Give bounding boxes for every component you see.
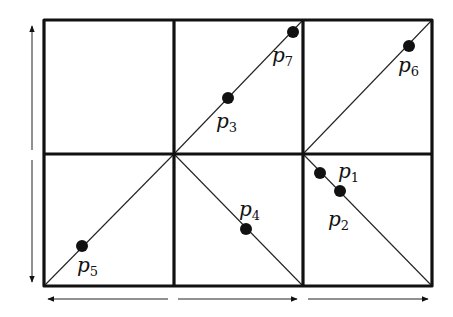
point-p1 — [314, 167, 326, 179]
point-p5 — [76, 240, 88, 252]
label-p3: p3 — [216, 109, 237, 135]
grid-frame — [44, 20, 432, 286]
dimension-arrows — [32, 26, 428, 299]
label-p1: p1 — [338, 159, 359, 185]
point-p3 — [222, 92, 234, 104]
point-p7 — [287, 26, 299, 38]
point-p4 — [240, 223, 252, 235]
point-labels: p1 p2 p3 p4 p5 p6 p7 — [77, 43, 419, 279]
label-p7: p7 — [272, 43, 293, 69]
point-p6 — [403, 40, 415, 52]
label-p5: p5 — [77, 253, 98, 279]
grid-diagram: p1 p2 p3 p4 p5 p6 p7 — [0, 0, 453, 317]
point-p2 — [334, 185, 346, 197]
diagonal-bottom-left — [44, 154, 174, 286]
label-p2: p2 — [328, 207, 349, 233]
label-p6: p6 — [398, 53, 419, 79]
label-p4: p4 — [239, 197, 260, 223]
diagonal-top-middle — [174, 20, 303, 154]
diagonal-top-right — [303, 20, 432, 154]
